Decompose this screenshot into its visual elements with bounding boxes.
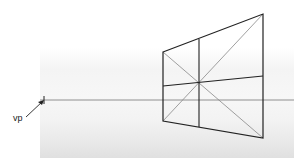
perspective-plane-outline [163, 14, 263, 138]
diagonal-2 [163, 14, 263, 121]
perspective-diagram [0, 0, 308, 162]
diagonal-1 [163, 52, 263, 138]
horizontal-midline [163, 76, 263, 86]
vp-label: vp [13, 113, 23, 123]
